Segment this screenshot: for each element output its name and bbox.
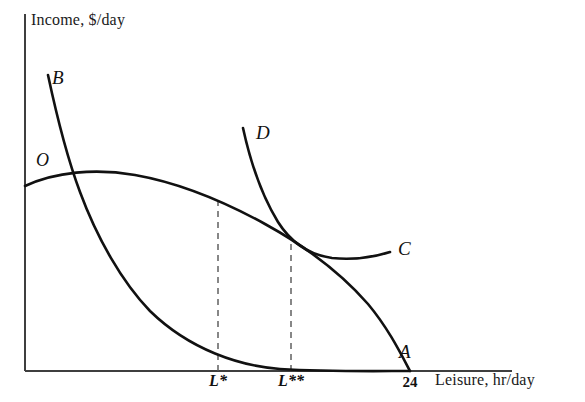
curve-label-a: A — [399, 341, 411, 363]
curve-label-b: B — [52, 67, 64, 89]
curve-label-o: O — [36, 150, 49, 171]
chart-canvas — [0, 0, 585, 402]
curve-d-c — [243, 128, 390, 259]
tick-label-24: 24 — [392, 374, 428, 391]
curve-b-a — [48, 75, 410, 371]
labor-leisure-choice-figure: Income, $/day Leisure, hr/day B O D C A … — [0, 0, 585, 402]
x-axis-title: Leisure, hr/day — [435, 371, 535, 389]
curve-label-d: D — [256, 122, 270, 144]
y-axis-title: Income, $/day — [31, 11, 125, 29]
tick-label-l-star: L* — [198, 372, 238, 390]
tick-label-l-double-star: L** — [268, 372, 314, 390]
curve-label-c: C — [398, 238, 411, 260]
